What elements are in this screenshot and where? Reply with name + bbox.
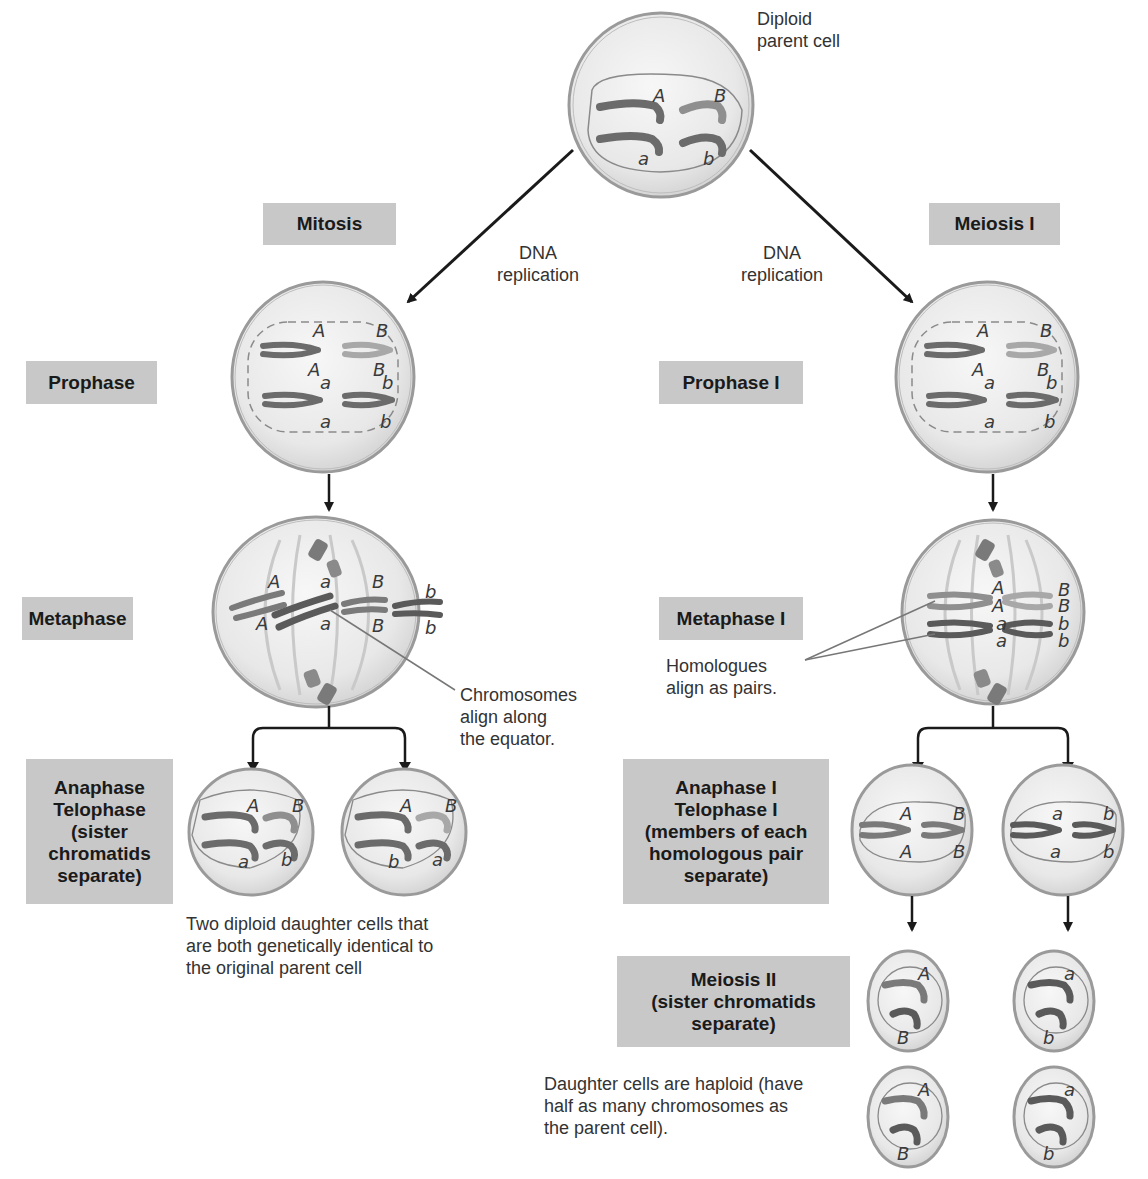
svg-text:b: b (1044, 411, 1055, 432)
stage-label-anaphase-telophase: Anaphase Telophase (sister chromatids se… (26, 759, 173, 904)
diagram-canvas: A B a b A B A a B b a b A B A a B (0, 0, 1148, 1179)
meiosis-prophase-cell: A B A a B b a b (896, 282, 1078, 472)
meiosis1-daughter-cell-2: a b a b (1003, 765, 1123, 895)
svg-text:b: b (1058, 630, 1069, 651)
mitosis-header: Mitosis (263, 203, 396, 245)
stage-label-prophase: Prophase (26, 361, 157, 404)
svg-text:b: b (425, 581, 436, 602)
svg-text:a: a (320, 613, 331, 634)
mitosis-daughter-cell-1: A B a b (189, 769, 313, 895)
svg-text:B: B (897, 1027, 909, 1048)
svg-text:b: b (281, 849, 292, 870)
svg-text:B: B (897, 1143, 909, 1164)
svg-text:A: A (312, 320, 325, 341)
allele-label: b (703, 148, 714, 169)
mitosis-replication-label: DNA replication (478, 242, 598, 286)
svg-text:A: A (246, 795, 259, 816)
svg-text:b: b (1046, 372, 1057, 393)
svg-text:a: a (1064, 963, 1075, 984)
stage-label-metaphase: Metaphase (22, 597, 133, 640)
svg-text:a: a (984, 411, 995, 432)
svg-text:a: a (1052, 803, 1063, 824)
svg-text:A: A (917, 1079, 930, 1100)
svg-text:a: a (320, 571, 331, 592)
svg-text:b: b (1103, 841, 1114, 862)
svg-text:b: b (1043, 1143, 1054, 1164)
mitosis-daughter-cell-2: A B b a (342, 769, 466, 895)
svg-text:b: b (1103, 803, 1114, 824)
parent-cell-label: Diploid parent cell (757, 8, 840, 52)
meiosis-metaphase-cell: A A a a B B b b (902, 520, 1084, 706)
svg-text:a: a (238, 851, 249, 872)
svg-text:b: b (388, 851, 399, 872)
svg-text:a: a (320, 411, 331, 432)
svg-text:b: b (382, 372, 393, 393)
mitosis-metaphase-cell: A a B b A a B b (213, 517, 440, 707)
mitosis-metaphase-annotation: Chromosomes align along the equator. (460, 684, 577, 750)
parent-cell: A B a b (569, 13, 753, 197)
meiosis1-daughter-cell-1: A B A B (852, 765, 972, 895)
meiosis2-cell-1: A B (868, 951, 948, 1051)
allele-label: a (638, 148, 649, 169)
stage-label-metaphase-i: Metaphase I (659, 597, 803, 640)
svg-text:B: B (372, 615, 384, 636)
meiosis-header: Meiosis I (929, 203, 1060, 245)
mitosis-result-text: Two diploid daughter cells that are both… (186, 913, 433, 979)
svg-text:B: B (292, 795, 304, 816)
svg-text:A: A (917, 963, 930, 984)
svg-text:b: b (425, 617, 436, 638)
meiosis-replication-label: DNA replication (722, 242, 842, 286)
svg-text:A: A (267, 571, 280, 592)
meiosis2-cell-2: a b (1014, 951, 1094, 1051)
svg-text:B: B (953, 803, 965, 824)
svg-text:A: A (255, 613, 268, 634)
svg-text:A: A (899, 841, 912, 862)
svg-text:A: A (399, 795, 412, 816)
svg-text:A: A (976, 320, 989, 341)
mitosis-prophase-cell: A B A a B b a b (232, 282, 414, 472)
stage-label-anaphase-telophase-i: Anaphase I Telophase I (members of each … (623, 759, 829, 904)
mitosis-split-connector (253, 706, 405, 768)
allele-label: B (714, 85, 726, 106)
meiosis2-cell-4: a b (1014, 1067, 1094, 1167)
svg-text:B: B (372, 571, 384, 592)
svg-text:a: a (996, 630, 1007, 651)
allele-label: A (652, 85, 665, 106)
svg-text:A: A (899, 803, 912, 824)
svg-text:B: B (376, 320, 388, 341)
svg-text:B: B (953, 841, 965, 862)
svg-text:A: A (971, 359, 984, 380)
stage-label-meiosis-ii: Meiosis II (sister chromatids separate) (617, 956, 850, 1047)
svg-text:A: A (307, 359, 320, 380)
meiosis-metaphase-annotation: Homologues align as pairs. (666, 655, 777, 699)
stage-label-prophase-i: Prophase I (659, 361, 803, 404)
meiosis-split-connector (918, 706, 1068, 768)
meiosis2-cell-3: A B (868, 1067, 948, 1167)
svg-text:a: a (1064, 1079, 1075, 1100)
svg-text:a: a (984, 372, 995, 393)
svg-text:a: a (1050, 841, 1061, 862)
svg-text:B: B (1040, 320, 1052, 341)
svg-text:a: a (320, 372, 331, 393)
svg-text:a: a (432, 849, 443, 870)
svg-text:B: B (445, 795, 457, 816)
svg-text:b: b (380, 411, 391, 432)
svg-text:b: b (1043, 1027, 1054, 1048)
meiosis-result-text: Daughter cells are haploid (have half as… (544, 1073, 803, 1139)
